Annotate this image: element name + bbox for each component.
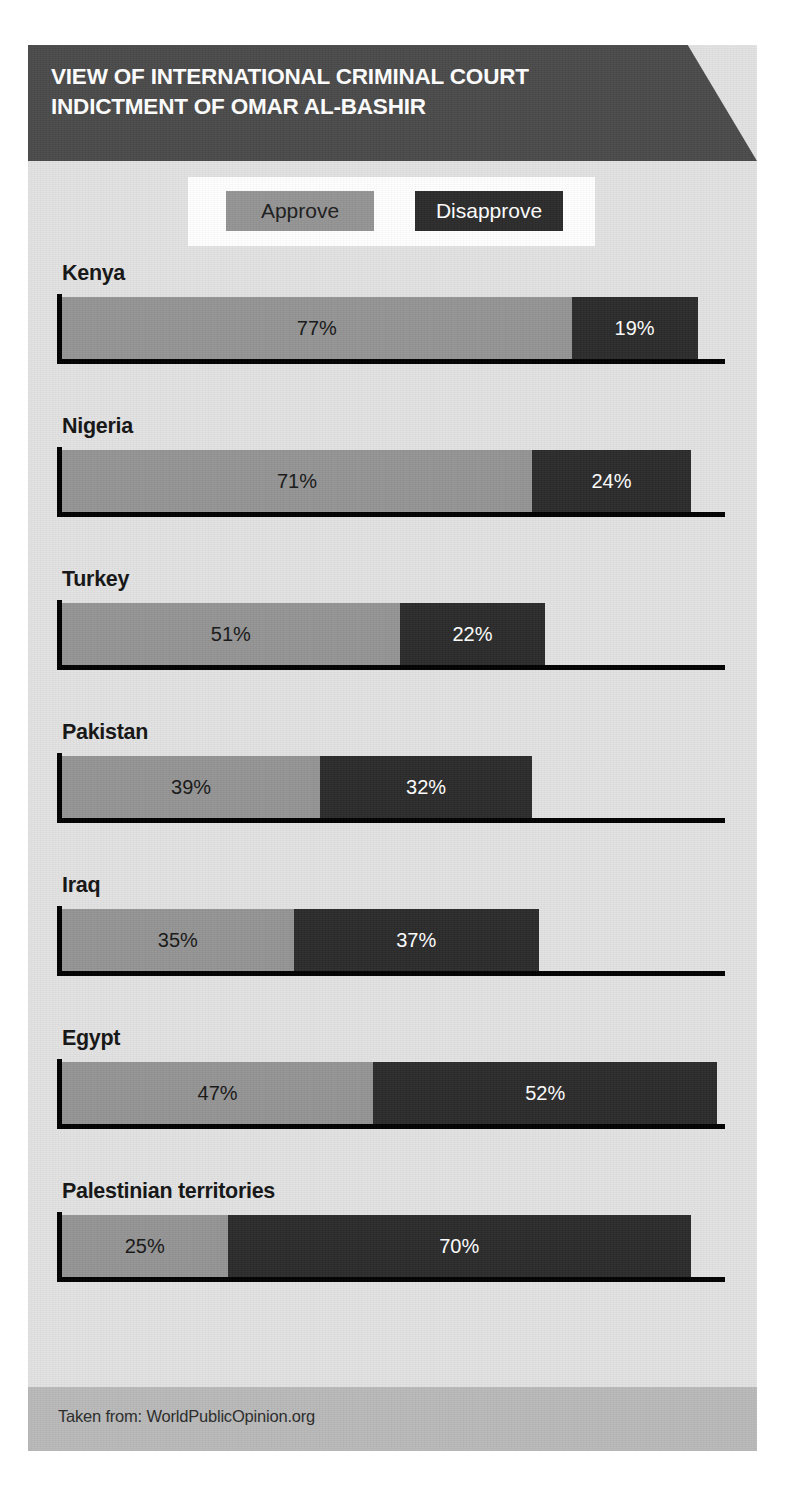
axis-baseline xyxy=(57,359,725,364)
category-label: Egypt xyxy=(62,1026,120,1051)
bar-row: Kenya77%19% xyxy=(28,261,757,414)
category-label: Palestinian territories xyxy=(62,1179,275,1204)
bar-track: 39%32% xyxy=(62,756,532,818)
bar-track: 51%22% xyxy=(62,603,545,665)
bar-segment-disapprove: 24% xyxy=(532,450,691,512)
bar-segment-approve: 25% xyxy=(62,1215,228,1277)
legend-label-disapprove: Disapprove xyxy=(436,199,542,223)
legend-item-approve: Approve xyxy=(226,191,374,231)
legend-item-disapprove: Disapprove xyxy=(415,191,563,231)
bar-row: Pakistan39%32% xyxy=(28,720,757,873)
bar-segment-disapprove: 32% xyxy=(320,756,532,818)
axis-baseline xyxy=(57,1277,725,1282)
bar-row: Turkey51%22% xyxy=(28,567,757,720)
bar-segment-disapprove: 52% xyxy=(373,1062,717,1124)
category-label: Nigeria xyxy=(62,414,133,439)
infographic-panel: VIEW OF INTERNATIONAL CRIMINAL COURT IND… xyxy=(28,45,757,1451)
bar-segment-approve: 35% xyxy=(62,909,294,971)
bar-segment-disapprove: 19% xyxy=(572,297,698,359)
bar-segment-approve: 51% xyxy=(62,603,400,665)
bar-segment-disapprove: 22% xyxy=(400,603,546,665)
bar-row: Nigeria71%24% xyxy=(28,414,757,567)
chart-legend: Approve Disapprove xyxy=(188,177,595,246)
category-label: Kenya xyxy=(62,261,125,286)
source-attribution: Taken from: WorldPublicOpinion.org xyxy=(58,1407,315,1426)
bar-segment-approve: 71% xyxy=(62,450,532,512)
category-label: Pakistan xyxy=(62,720,148,745)
bar-chart: Kenya77%19%Nigeria71%24%Turkey51%22%Paki… xyxy=(28,261,757,1332)
bar-segment-approve: 39% xyxy=(62,756,320,818)
axis-baseline xyxy=(57,1124,725,1129)
footer-band: Taken from: WorldPublicOpinion.org xyxy=(28,1387,757,1451)
axis-baseline xyxy=(57,971,725,976)
bar-track: 71%24% xyxy=(62,450,691,512)
bar-row: Palestinian territories25%70% xyxy=(28,1179,757,1332)
category-label: Iraq xyxy=(62,873,100,898)
bar-segment-approve: 47% xyxy=(62,1062,373,1124)
axis-baseline xyxy=(57,512,725,517)
bar-track: 77%19% xyxy=(62,297,698,359)
bar-track: 47%52% xyxy=(62,1062,717,1124)
bar-segment-disapprove: 70% xyxy=(228,1215,691,1277)
bar-segment-disapprove: 37% xyxy=(294,909,539,971)
bar-track: 35%37% xyxy=(62,909,539,971)
category-label: Turkey xyxy=(62,567,129,592)
page-title: VIEW OF INTERNATIONAL CRIMINAL COURT IND… xyxy=(51,62,651,122)
bar-segment-approve: 77% xyxy=(62,297,572,359)
bar-row: Iraq35%37% xyxy=(28,873,757,1026)
header-banner: VIEW OF INTERNATIONAL CRIMINAL COURT IND… xyxy=(28,45,757,161)
axis-baseline xyxy=(57,818,725,823)
legend-label-approve: Approve xyxy=(261,199,339,223)
bar-row: Egypt47%52% xyxy=(28,1026,757,1179)
axis-baseline xyxy=(57,665,725,670)
bar-track: 25%70% xyxy=(62,1215,691,1277)
